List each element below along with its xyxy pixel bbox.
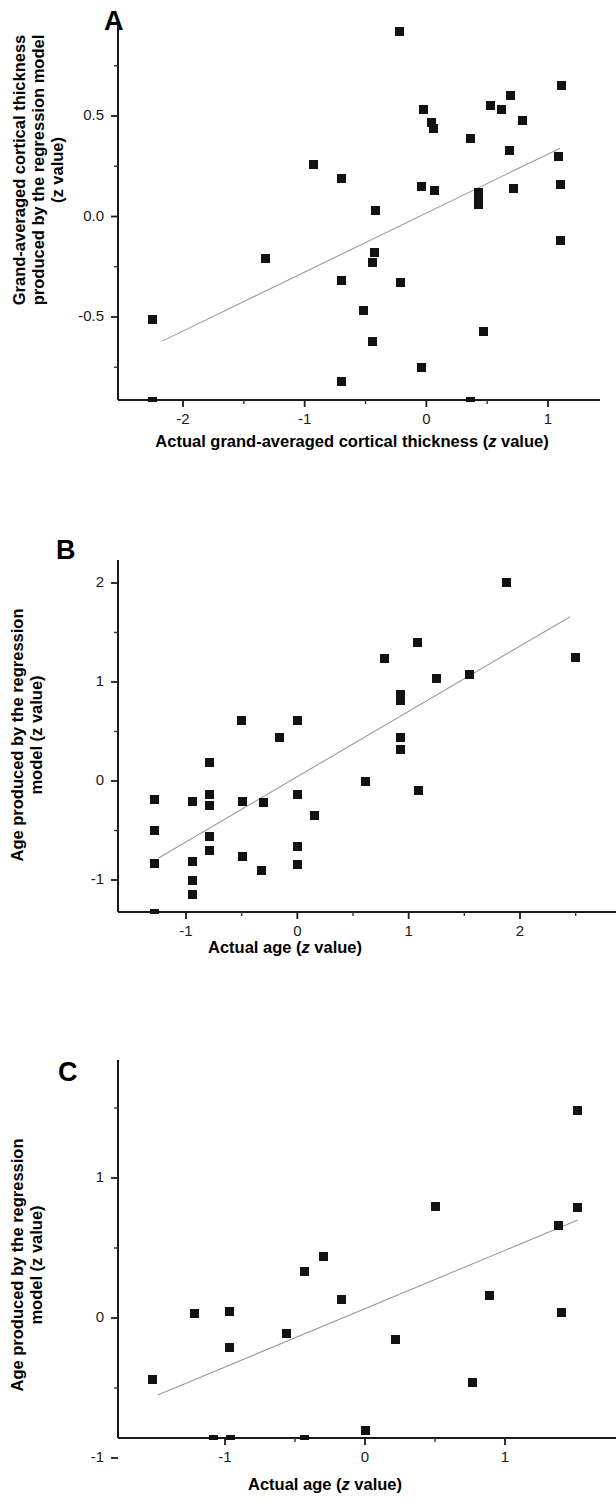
data-point bbox=[368, 258, 377, 267]
panel-c-x-axis-label-suffix: value) bbox=[350, 1475, 402, 1493]
panel-a-x-tick-label: -1 bbox=[280, 410, 330, 427]
panel-b-x-tick-label: 1 bbox=[384, 922, 434, 939]
panel-b-x-tick-label: 0 bbox=[272, 922, 322, 939]
panel-b-x-axis-label-italic: z bbox=[302, 938, 310, 956]
panel-a-x-tick-label: 1 bbox=[523, 410, 573, 427]
data-point bbox=[368, 337, 377, 346]
data-point bbox=[361, 777, 370, 786]
panel-b-y-tick-label: -1 bbox=[44, 870, 104, 887]
data-point bbox=[479, 327, 488, 336]
data-point bbox=[337, 276, 346, 285]
panel-c-x-tick-label: 0 bbox=[340, 1448, 390, 1465]
panel-a-y-tick-label: 0.5 bbox=[44, 106, 104, 123]
panel-c-x-axis-label-italic: z bbox=[342, 1475, 350, 1493]
panel-a-y-axis-label-line-3: (z value) bbox=[48, 20, 67, 320]
data-point bbox=[396, 696, 405, 705]
data-point bbox=[275, 733, 284, 742]
data-point bbox=[205, 758, 214, 767]
data-point bbox=[509, 184, 518, 193]
data-point bbox=[225, 1307, 234, 1316]
panel-b-x-axis-label-prefix: Actual age ( bbox=[208, 938, 302, 956]
panel-b-x-tick-label: -1 bbox=[161, 922, 211, 939]
data-point bbox=[150, 826, 159, 835]
panel-b-x-axis-label-suffix: value) bbox=[310, 938, 362, 956]
data-point bbox=[205, 801, 214, 810]
data-point bbox=[419, 105, 428, 114]
panel-a-plot-area: 0.50.0-0.5-2-101 bbox=[118, 24, 600, 400]
data-point bbox=[466, 134, 475, 143]
data-point bbox=[190, 1309, 199, 1318]
panel-c-y-tick-label: -1 bbox=[44, 1448, 104, 1465]
panel-c-letter: C bbox=[58, 1057, 78, 1088]
regression-line bbox=[158, 617, 570, 859]
data-point bbox=[361, 1426, 370, 1435]
panel-b-y-tick-label: 0 bbox=[44, 771, 104, 788]
data-point bbox=[188, 797, 197, 806]
data-point bbox=[396, 733, 405, 742]
data-point bbox=[505, 146, 514, 155]
data-point bbox=[359, 306, 368, 315]
panel-a-x-axis-label-suffix: value) bbox=[496, 432, 548, 450]
data-point bbox=[432, 674, 441, 683]
panel-c-axes bbox=[118, 1060, 616, 1438]
panel-c-x-tick-label: -1 bbox=[200, 1448, 250, 1465]
data-point bbox=[466, 397, 475, 402]
data-point bbox=[571, 653, 580, 662]
panel-b-x-tick-label: 2 bbox=[495, 922, 545, 939]
data-point bbox=[337, 1295, 346, 1304]
data-point bbox=[502, 578, 511, 587]
data-point bbox=[310, 811, 319, 820]
panel-c-x-axis-label-prefix: Actual age ( bbox=[248, 1475, 342, 1493]
data-point bbox=[371, 206, 380, 215]
data-point bbox=[430, 186, 439, 195]
data-point bbox=[557, 1308, 566, 1317]
panel-a-x-tick-label: 0 bbox=[401, 410, 451, 427]
panel-b-letter: B bbox=[56, 535, 76, 566]
panel-c-x-tick-label: 1 bbox=[480, 1448, 530, 1465]
data-point bbox=[518, 116, 527, 125]
data-point bbox=[238, 852, 247, 861]
data-point bbox=[465, 670, 474, 679]
data-point bbox=[556, 236, 565, 245]
data-point bbox=[474, 200, 483, 209]
panel-a-y-axis-label-line-1: Grand-averaged cortical thickness bbox=[10, 20, 29, 320]
panel-a-y-axis-label-line-2: produced by the regression model bbox=[29, 20, 48, 320]
data-point bbox=[337, 377, 346, 386]
panel-b-y-tick-label: 2 bbox=[44, 573, 104, 590]
panel-b: B Age produced by the regression model (… bbox=[0, 500, 616, 1020]
data-point bbox=[257, 866, 266, 875]
data-point bbox=[396, 278, 405, 287]
data-point bbox=[148, 315, 157, 324]
data-point bbox=[300, 1435, 309, 1440]
data-point bbox=[293, 716, 302, 725]
data-point bbox=[431, 1202, 440, 1211]
data-point bbox=[395, 27, 404, 36]
data-point bbox=[188, 857, 197, 866]
data-point bbox=[429, 124, 438, 133]
data-point bbox=[293, 842, 302, 851]
data-point bbox=[188, 890, 197, 899]
data-point bbox=[282, 1329, 291, 1338]
data-point bbox=[150, 909, 159, 914]
panel-b-y-tick-label: 1 bbox=[44, 672, 104, 689]
panel-c-y-axis-label: Age produced by the regression model (z … bbox=[8, 1095, 46, 1435]
data-point bbox=[293, 790, 302, 799]
panel-c-y-tick-label: 1 bbox=[44, 1168, 104, 1185]
data-point bbox=[380, 654, 389, 663]
data-point bbox=[413, 638, 422, 647]
panel-c-y-axis-label-line-2: model (z value) bbox=[27, 1095, 46, 1435]
data-point bbox=[417, 182, 426, 191]
panel-a-x-axis-label-prefix: Actual grand-averaged cortical thickness… bbox=[155, 432, 488, 450]
panel-c-plot-area: 10-1-101 bbox=[118, 1060, 616, 1438]
data-point bbox=[300, 1267, 309, 1276]
data-point bbox=[259, 798, 268, 807]
panel-b-y-axis-label: Age produced by the regression model (z … bbox=[8, 570, 46, 900]
panel-c: C Age produced by the regression model (… bbox=[0, 1020, 616, 1503]
regression-line bbox=[158, 1220, 578, 1395]
data-point bbox=[506, 91, 515, 100]
data-point bbox=[557, 81, 566, 90]
panel-b-y-axis-label-line-1: Age produced by the regression bbox=[8, 570, 27, 900]
data-point bbox=[486, 101, 495, 110]
data-point bbox=[150, 795, 159, 804]
panel-c-x-axis-label: Actual age (z value) bbox=[160, 1475, 490, 1494]
